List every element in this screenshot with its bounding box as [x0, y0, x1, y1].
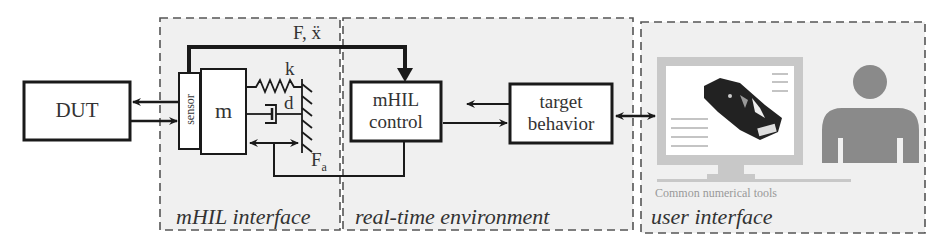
mhil-control-label: mHIL control	[351, 89, 441, 133]
control-to-actuator-line	[274, 141, 404, 176]
feedback-label: F, ẍ	[293, 22, 321, 44]
actuator-force-subscript: a	[322, 160, 327, 174]
dut-label: DUT	[24, 99, 130, 121]
feedback-arrowhead	[397, 68, 413, 82]
sensor-label: sensor	[183, 88, 198, 132]
wall-icon	[302, 79, 312, 153]
person-icon	[822, 65, 919, 163]
mhil-control-line1: mHIL	[351, 89, 441, 111]
mhil-control-line2: control	[351, 111, 441, 133]
target-behavior-line1: target	[510, 91, 612, 113]
real-time-environment-label: real-time environment	[355, 204, 549, 230]
target-behavior-line2: behavior	[510, 113, 612, 135]
actuator-force-symbol: F	[311, 149, 322, 170]
spring-k-label: k	[285, 58, 295, 80]
target-behavior-label: target behavior	[510, 91, 612, 135]
user-interface-label: user interface	[651, 204, 773, 230]
actuator-force-label: Fa	[311, 149, 327, 175]
mass-label: m	[201, 98, 246, 124]
ui-caption: Common numerical tools	[655, 186, 777, 201]
mhil-interface-label: mHIL interface	[176, 204, 311, 230]
spring-icon	[246, 80, 302, 92]
damper-d-label: d	[284, 92, 294, 114]
